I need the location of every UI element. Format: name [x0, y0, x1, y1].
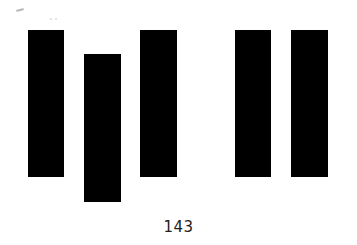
scan-artifact [50, 18, 52, 20]
black-bar-4 [235, 30, 271, 177]
scan-artifact [55, 18, 57, 20]
black-bar-3 [140, 30, 177, 177]
black-bar-1 [28, 30, 64, 177]
black-bar-2 [84, 54, 121, 202]
page-number: 143 [0, 218, 357, 236]
scan-artifact [16, 8, 24, 12]
black-bar-5 [291, 30, 328, 177]
document-page: 143 [0, 0, 357, 245]
